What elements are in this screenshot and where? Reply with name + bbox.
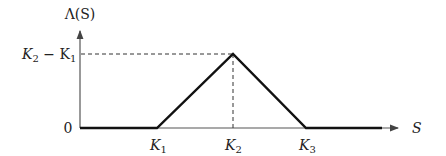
y-tick-zero: 0 (64, 120, 73, 136)
x-tick-k3: K3 (298, 137, 316, 155)
x-axis-label: S (412, 120, 422, 136)
payoff-diagram: Λ(S) S 0 K2 − K1 K1 K2 K3 (0, 0, 446, 156)
payoff-line (80, 54, 382, 128)
x-tick-k1: K1 (149, 137, 167, 155)
y-axis-label: Λ(S) (64, 6, 96, 22)
y-tick-peak: K2 − K1 (21, 46, 76, 64)
x-tick-k2: K2 (224, 137, 242, 155)
